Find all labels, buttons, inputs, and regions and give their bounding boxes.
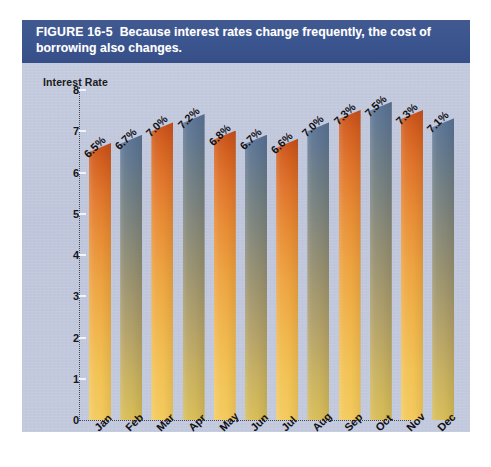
bar-sheen — [370, 102, 392, 420]
bar[interactable] — [339, 110, 361, 420]
bar-sheen — [89, 143, 111, 420]
bar-fill — [339, 110, 361, 420]
bar[interactable] — [151, 122, 173, 420]
bar[interactable] — [183, 114, 205, 420]
bar-fill — [183, 114, 205, 420]
chart-plot-area: Interest Rate 012345678 6.5%6.7%7.0%7.2%… — [22, 63, 470, 432]
bar[interactable] — [370, 102, 392, 420]
bar-fill — [245, 135, 267, 420]
bar-fill — [89, 143, 111, 420]
bar-sheen — [214, 131, 236, 421]
bar-fill — [432, 118, 454, 420]
bar-fill — [276, 139, 298, 420]
bar[interactable] — [307, 122, 329, 420]
bar[interactable] — [214, 131, 236, 421]
bar-fill — [307, 122, 329, 420]
bar[interactable] — [120, 135, 142, 420]
bar[interactable] — [89, 143, 111, 420]
bar[interactable] — [245, 135, 267, 420]
bar[interactable] — [432, 118, 454, 420]
bar-fill — [120, 135, 142, 420]
bar-sheen — [151, 122, 173, 420]
bar-sheen — [339, 110, 361, 420]
bar[interactable] — [276, 139, 298, 420]
figure-number-label: FIGURE 16-5 — [36, 25, 113, 39]
bar-fill — [401, 110, 423, 420]
figure-title-banner: FIGURE 16-5Because interest rates change… — [22, 20, 470, 63]
bar-fill — [370, 102, 392, 420]
bar-sheen — [276, 139, 298, 420]
bar-sheen — [307, 122, 329, 420]
bar-sheen — [183, 114, 205, 420]
bar-sheen — [120, 135, 142, 420]
bar-sheen — [245, 135, 267, 420]
figure-panel: FIGURE 16-5Because interest rates change… — [22, 20, 470, 432]
bars-layer: 6.5%6.7%7.0%7.2%6.8%6.7%6.6%7.0%7.3%7.5%… — [22, 63, 470, 432]
bar-fill — [214, 131, 236, 421]
bar-sheen — [432, 118, 454, 420]
bar-fill — [151, 122, 173, 420]
figure-title-text: FIGURE 16-5Because interest rates change… — [36, 25, 456, 56]
bar-sheen — [401, 110, 423, 420]
bar[interactable] — [401, 110, 423, 420]
